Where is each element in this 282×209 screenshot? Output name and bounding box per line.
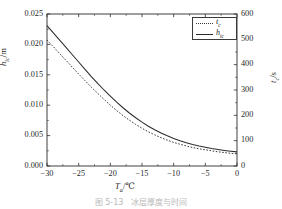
legend-box: tc hic [192,17,237,40]
figure-container: 0.0000.0050.0100.0150.0200.0250100200300… [0,0,282,209]
y-right-ticklabel-6: 600 [241,10,263,18]
x-ticklabel-6: 0 [225,170,249,178]
y-axis-left-symbol: h [0,62,8,66]
y-right-ticklabel-0: 0 [241,162,263,170]
x-axis-title: Ta/℃ [115,181,135,193]
y-axis-right-subscript: c [273,78,280,81]
y-left-ticklabel-3: 0.015 [11,71,43,79]
y-axis-right-unit: /s [268,72,278,78]
legend-item-hic: hic [193,29,236,40]
x-ticklabel-0: −30 [35,170,59,178]
legend-item-tc: tc [193,18,236,29]
y-right-ticklabel-3: 300 [241,86,263,94]
legend-label-hic: hic [216,29,224,39]
legend-swatch-dotted-icon [196,23,213,24]
y-right-ticklabel-4: 400 [241,60,263,68]
figure-caption: 图 5-13 冰层厚度与时间 [95,196,188,207]
y-axis-left-title: hic/m [0,48,10,66]
x-ticklabel-3: −15 [130,170,154,178]
y-left-ticklabel-4: 0.020 [11,40,43,48]
x-ticklabel-2: −20 [98,170,122,178]
y-left-ticklabel-1: 0.005 [11,131,43,139]
legend-label-tc: tc [216,18,221,28]
legend-swatch-solid-icon [196,34,213,35]
y-left-ticklabel-0: 0.000 [11,162,43,170]
y-left-ticklabel-2: 0.010 [11,101,43,109]
y-left-ticklabel-5: 0.025 [11,10,43,18]
y-axis-left-subscript: ic [3,57,10,61]
x-ticklabel-1: −25 [67,170,91,178]
x-axis-unit: /℃ [123,181,135,191]
x-ticklabel-5: −5 [193,170,217,178]
y-right-ticklabel-1: 100 [241,136,263,144]
y-right-ticklabel-5: 500 [241,35,263,43]
y-axis-left-unit: /m [0,48,8,57]
y-right-ticklabel-2: 200 [241,111,263,119]
x-ticklabel-4: −10 [162,170,186,178]
y-axis-right-title: tc/s [268,72,280,83]
